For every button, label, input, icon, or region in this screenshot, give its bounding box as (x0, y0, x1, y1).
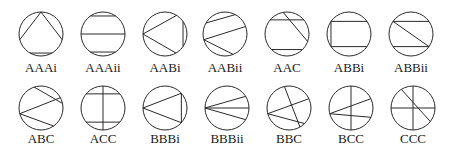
circle-aabi (143, 12, 187, 56)
chord-abbii-3 (393, 21, 429, 46)
diagram-panel-abbii: ABBii (389, 12, 433, 75)
chord-bbbii-1 (205, 96, 246, 108)
diagram-label-acc: ACC (90, 131, 117, 146)
chord-bcc-3 (330, 114, 371, 118)
diagram-panel-abbi: ABBi (327, 12, 371, 75)
diagram-panel-aaaii: AAAii (81, 12, 125, 75)
diagram-label-bcc: BCC (338, 131, 364, 146)
chord-ccc-3 (401, 89, 430, 121)
chord-aabii-3 (204, 40, 233, 55)
diagram-label-abbi: ABBi (334, 60, 365, 75)
chord-aaai-1 (20, 12, 41, 40)
diagram-panel-bcc: BCC (329, 86, 373, 146)
chord-aaai-2 (41, 12, 62, 40)
circle-bbbi (143, 86, 187, 130)
chord-bbbi-2 (143, 108, 181, 123)
diagram-panel-bbbi: BBBi (143, 86, 187, 146)
diagram-panel-abc: ABC (19, 86, 63, 146)
chord-aabii-2 (204, 26, 246, 39)
chord-abc-2 (20, 114, 54, 126)
diagram-label-abc: ABC (28, 131, 55, 146)
chord-aac-3 (283, 12, 307, 41)
circle-abbi (327, 12, 371, 56)
diagram-panel-aabii: AABii (203, 12, 247, 75)
diagram-label-aac: AAC (273, 60, 300, 75)
chord-abc-1 (20, 98, 61, 114)
chord-bbbi-1 (143, 93, 181, 108)
diagram-label-bbbi: BBBi (150, 131, 180, 146)
circle-abc (19, 86, 63, 130)
chord-abc-3 (34, 87, 62, 103)
diagram-label-aaaii: AAAii (85, 60, 121, 75)
circle-aabii (203, 12, 247, 56)
diagram-panel-ccc: CCC (391, 86, 435, 146)
chord-aabii-1 (206, 15, 235, 23)
diagram-panel-aac: AAC (265, 12, 309, 75)
chord-bbc-2 (268, 114, 305, 124)
diagram-label-bbbii: BBBii (210, 131, 244, 146)
diagram-panel-aaai: AAAi (19, 12, 63, 75)
chord-bbc-1 (268, 99, 309, 114)
diagram-panel-bbbii: BBBii (205, 86, 249, 146)
diagram-label-abbii: ABBii (394, 60, 428, 75)
chord-diagram-figure: AAAiAAAiiAABiAABiiAACABBiABBiiABCACCBBBi… (0, 0, 456, 150)
chord-aabi-2 (143, 34, 176, 53)
chord-bcc-2 (330, 99, 371, 114)
diagram-panel-bbc: BBC (267, 86, 311, 146)
diagram-label-bbc: BBC (276, 131, 302, 146)
circle-aaai (19, 12, 63, 56)
diagram-panel-acc: ACC (81, 86, 125, 146)
chord-bbbii-3 (205, 108, 246, 120)
diagram-label-aaai: AAAi (25, 60, 57, 75)
diagram-label-aabi: AABi (149, 60, 180, 75)
diagram-label-aabii: AABii (208, 60, 243, 75)
chord-aabi-1 (143, 15, 177, 34)
diagram-panel-aabi: AABi (143, 12, 187, 75)
diagram-label-ccc: CCC (400, 131, 426, 146)
